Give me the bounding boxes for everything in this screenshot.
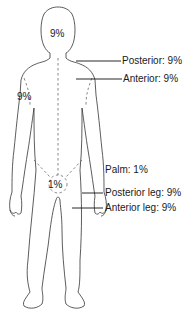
- anterior-leg-label: Anterior leg: 9%: [105, 203, 176, 213]
- groin-left-dashed: [34, 160, 50, 177]
- left-arm-outline: [10, 95, 34, 216]
- genital-label: 1%: [48, 180, 62, 190]
- right-leg-outline: [60, 170, 85, 308]
- anterior-trunk-label: Anterior: 9%: [123, 74, 178, 84]
- posterior-leg-label: Posterior leg: 9%: [105, 188, 181, 198]
- arm-label: 9%: [17, 92, 31, 102]
- groin-right-dashed: [66, 160, 82, 177]
- palm-label: Palm: 1%: [105, 165, 148, 175]
- head-outline: [41, 7, 96, 95]
- right-shoulder-dashed: [86, 78, 92, 105]
- body-outline-figure: [0, 0, 191, 316]
- head-label: 9%: [50, 29, 64, 39]
- posterior-trunk-label: Posterior: 9%: [122, 56, 182, 66]
- left-leg-outline: [23, 170, 56, 308]
- right-arm-outline: [82, 95, 106, 216]
